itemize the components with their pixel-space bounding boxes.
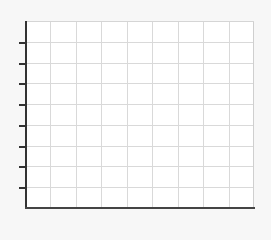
grid-line-vertical xyxy=(101,21,102,208)
grid-line-horizontal xyxy=(25,146,254,147)
x-axis xyxy=(25,207,255,209)
y-tick-mark xyxy=(19,166,26,168)
grid-line-horizontal xyxy=(25,187,254,188)
plot-border-right xyxy=(253,21,254,208)
plot-area xyxy=(25,21,254,208)
y-tick-mark xyxy=(19,83,26,85)
y-tick-mark xyxy=(19,187,26,189)
grid-line-vertical xyxy=(76,21,77,208)
grid-line-horizontal xyxy=(25,42,254,43)
y-axis xyxy=(25,21,27,209)
grid-line-horizontal xyxy=(25,125,254,126)
plot-border-top xyxy=(25,21,254,22)
y-tick-mark xyxy=(19,63,26,65)
grid-line-horizontal xyxy=(25,63,254,64)
y-tick-mark xyxy=(19,104,26,106)
grid-line-horizontal xyxy=(25,104,254,105)
grid-line-horizontal xyxy=(25,166,254,167)
y-tick-mark xyxy=(19,125,26,127)
grid-line-horizontal xyxy=(25,83,254,84)
y-tick-mark xyxy=(19,42,26,44)
grid-line-vertical xyxy=(203,21,204,208)
grid-line-vertical xyxy=(50,21,51,208)
grid-line-vertical xyxy=(152,21,153,208)
grid-line-vertical xyxy=(229,21,230,208)
grid-line-vertical xyxy=(127,21,128,208)
y-tick-mark xyxy=(19,146,26,148)
grid-line-vertical xyxy=(178,21,179,208)
